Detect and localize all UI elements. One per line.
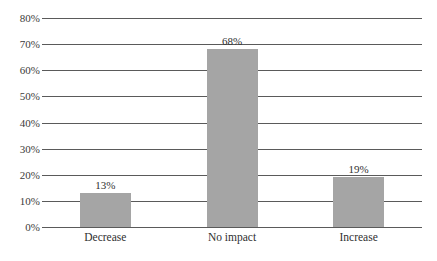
y-axis-tick: 20% — [2, 169, 40, 180]
x-axis-category-increase: Increase — [304, 231, 414, 245]
bar-value-label: 13% — [75, 180, 135, 191]
bar-value-label: 68% — [202, 36, 262, 47]
y-axis-tick: 40% — [2, 117, 40, 128]
x-axis: Decrease No impact Increase — [42, 231, 422, 251]
y-axis-tick: 70% — [2, 39, 40, 50]
y-axis-tick: 60% — [2, 65, 40, 76]
y-axis-tick: 30% — [2, 143, 40, 154]
plot-area: 13% 68% 19% — [42, 18, 422, 227]
bar-decrease — [80, 193, 131, 227]
gridline — [42, 18, 422, 19]
bar-value-label: 19% — [329, 164, 389, 175]
bar-no-impact — [207, 49, 258, 227]
x-axis-category-decrease: Decrease — [50, 231, 160, 245]
axis-baseline — [42, 227, 422, 228]
x-axis-category-no-impact: No impact — [177, 231, 287, 245]
y-axis-tick: 0% — [2, 222, 40, 233]
bar-increase — [333, 177, 384, 227]
y-axis-tick: 50% — [2, 91, 40, 102]
y-axis-tick: 80% — [2, 13, 40, 24]
y-axis-tick: 10% — [2, 195, 40, 206]
y-axis: 80% 70% 60% 50% 40% 30% 20% 10% 0% — [0, 18, 40, 227]
bar-chart: 80% 70% 60% 50% 40% 30% 20% 10% 0% 13% 6… — [0, 0, 437, 261]
